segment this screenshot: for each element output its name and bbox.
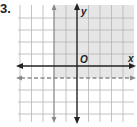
coordinate-graph: y x O bbox=[0, 0, 137, 127]
origin-label: O bbox=[80, 54, 88, 65]
x-axis-label: x bbox=[127, 53, 134, 64]
y-axis-label: y bbox=[80, 6, 87, 17]
